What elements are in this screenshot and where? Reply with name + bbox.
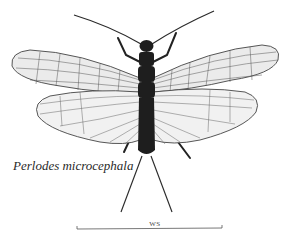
- species-name-label: Perlodes microcephala: [13, 158, 133, 174]
- stonefly-illustration: [0, 0, 293, 240]
- body: [138, 40, 155, 154]
- scale-bar-label: WS: [143, 220, 167, 228]
- specimen-illustration: Perlodes microcephala WS: [0, 0, 293, 240]
- antennae: [74, 11, 214, 44]
